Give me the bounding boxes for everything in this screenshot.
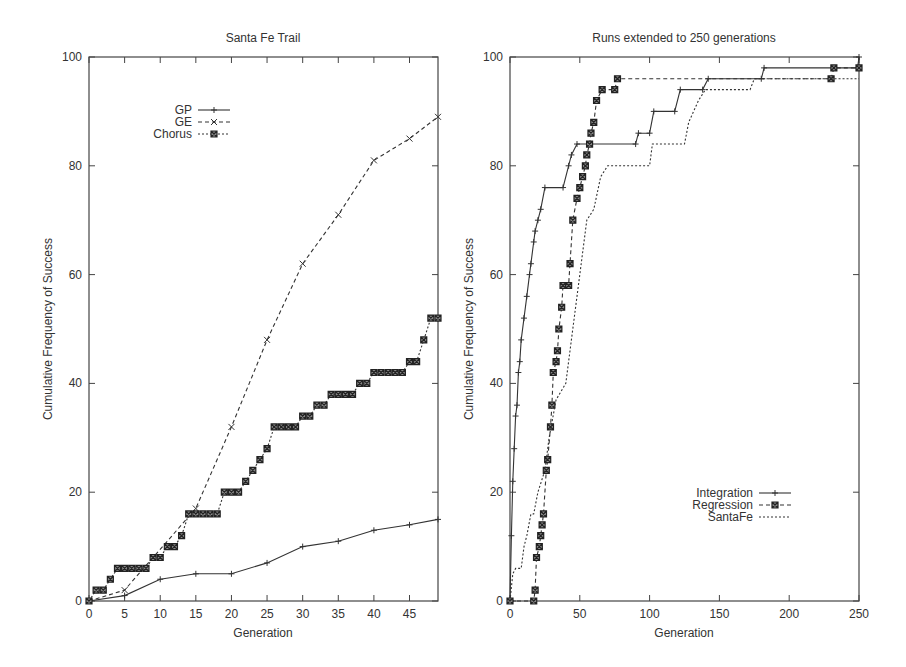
data-point xyxy=(518,337,524,343)
data-point xyxy=(392,370,398,376)
data-point xyxy=(538,206,544,212)
x-tick-label: 50 xyxy=(573,607,587,621)
data-point xyxy=(207,511,213,517)
data-point xyxy=(534,554,540,560)
chart-title: Runs extended to 250 generations xyxy=(592,31,775,45)
y-tick-label: 0 xyxy=(75,594,82,608)
legend-label: SantaFe xyxy=(708,510,754,524)
data-point xyxy=(510,478,516,484)
series-line xyxy=(89,519,438,601)
data-point xyxy=(264,560,270,566)
series-layer xyxy=(86,114,441,604)
data-point xyxy=(421,337,427,343)
santa-fe-trail-chart: Santa Fe Trail 051015202530354045 020406… xyxy=(41,31,441,640)
chart-title: Santa Fe Trail xyxy=(226,31,301,45)
data-point xyxy=(293,424,299,430)
data-point xyxy=(521,315,527,321)
data-point xyxy=(357,380,363,386)
data-point xyxy=(614,76,620,82)
data-point xyxy=(559,304,565,310)
data-point xyxy=(378,370,384,376)
data-point xyxy=(243,478,249,484)
data-point xyxy=(635,130,641,136)
data-point xyxy=(186,511,192,517)
data-point xyxy=(538,533,544,539)
data-point xyxy=(677,87,683,93)
data-point xyxy=(539,522,545,528)
data-point xyxy=(574,141,580,147)
data-point xyxy=(584,152,590,158)
data-point xyxy=(328,391,334,397)
data-point xyxy=(285,424,291,430)
data-point xyxy=(407,522,413,528)
x-tick-label: 0 xyxy=(507,607,514,621)
series-line xyxy=(510,79,859,601)
data-point xyxy=(278,424,284,430)
data-point xyxy=(587,141,593,147)
data-point xyxy=(594,98,600,104)
data-point xyxy=(200,511,206,517)
x-tick-label: 25 xyxy=(260,607,274,621)
x-ticks: 050100150200250 xyxy=(507,57,870,621)
data-point xyxy=(193,571,199,577)
data-point xyxy=(164,544,170,550)
data-point xyxy=(399,370,405,376)
data-point xyxy=(672,108,678,114)
series-gp xyxy=(86,516,441,604)
x-ticks: 051015202530354045 xyxy=(86,57,417,621)
y-tick-label: 20 xyxy=(69,485,83,499)
data-point xyxy=(647,130,653,136)
data-point xyxy=(300,413,306,419)
data-point xyxy=(371,157,377,163)
data-point xyxy=(228,489,234,495)
data-point xyxy=(236,489,242,495)
data-point xyxy=(574,195,580,201)
data-point xyxy=(257,457,263,463)
data-point xyxy=(531,239,537,245)
data-point xyxy=(321,402,327,408)
y-tick-label: 80 xyxy=(69,159,83,173)
data-point xyxy=(560,185,566,191)
data-point xyxy=(407,136,413,142)
legend-marker xyxy=(772,490,778,496)
data-point xyxy=(193,511,199,517)
data-point xyxy=(532,587,538,593)
runs-extended-chart: Runs extended to 250 generations 0501001… xyxy=(462,31,869,640)
data-point xyxy=(580,174,586,180)
data-point xyxy=(536,544,542,550)
x-tick-label: 250 xyxy=(849,607,869,621)
data-point xyxy=(335,538,341,544)
data-point xyxy=(542,185,548,191)
data-point xyxy=(414,359,420,365)
data-point xyxy=(371,370,377,376)
data-point xyxy=(364,380,370,386)
data-point xyxy=(143,565,149,571)
data-point xyxy=(591,119,597,125)
data-point xyxy=(556,326,562,332)
y-ticks: 020406080100 xyxy=(62,50,438,608)
data-point xyxy=(554,348,560,354)
data-point xyxy=(93,587,99,593)
y-tick-label: 40 xyxy=(490,376,504,390)
data-point xyxy=(250,467,256,473)
data-point xyxy=(264,337,270,343)
data-point xyxy=(532,228,538,234)
series-layer xyxy=(507,54,862,604)
series-santafe xyxy=(510,79,859,601)
plot-frame xyxy=(89,57,438,601)
data-point xyxy=(428,315,434,321)
data-point xyxy=(350,391,356,397)
data-point xyxy=(335,212,341,218)
data-point xyxy=(171,544,177,550)
data-point xyxy=(435,315,441,321)
data-point xyxy=(633,141,639,147)
x-tick-label: 150 xyxy=(709,607,729,621)
data-point xyxy=(566,282,572,288)
data-point xyxy=(271,424,277,430)
data-point xyxy=(524,293,530,299)
data-point xyxy=(612,87,618,93)
data-point xyxy=(528,261,534,267)
legend-marker xyxy=(772,502,778,508)
data-point xyxy=(566,163,572,169)
legend-marker xyxy=(211,131,217,137)
